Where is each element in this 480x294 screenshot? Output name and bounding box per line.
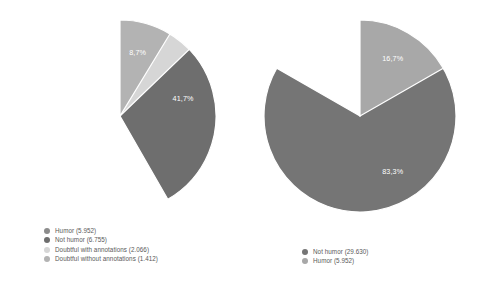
legend-swatch-icon — [302, 249, 308, 255]
legend-item[interactable]: Not humor (6.755) — [44, 237, 107, 243]
pie-chart-figure: 36,8%41,7%12,8%8,7% Humor (5.952) Not hu… — [0, 0, 480, 294]
legend-swatch-icon — [44, 247, 50, 253]
right-pie-svg: 83,3%16,7% — [262, 18, 458, 214]
legend-swatch-icon — [44, 228, 50, 234]
legend-item-label: Not humor (29.630) — [313, 249, 369, 255]
legend-swatch-icon — [302, 258, 308, 264]
legend-item-label: Humor (5.952) — [55, 228, 96, 234]
pie-slice-label: 8,7% — [129, 48, 146, 57]
right-chart-panel: 83,3%16,7% Not humor (29.630) Humor (5.9… — [240, 0, 480, 294]
left-pie-svg: 36,8%41,7%12,8%8,7% — [22, 18, 218, 214]
pie-slice-label: 16,7% — [382, 54, 403, 63]
legend-item[interactable]: Humor (5.952) — [44, 228, 96, 234]
legend-swatch-icon — [44, 256, 50, 262]
right-chart-legend: Not humor (29.630) Humor (5.952) — [240, 249, 480, 265]
left-chart-panel: 36,8%41,7%12,8%8,7% Humor (5.952) Not hu… — [0, 0, 240, 294]
legend-item[interactable]: Not humor (29.630) — [302, 249, 369, 255]
legend-item[interactable]: Doubtful without annotations (1.412) — [44, 256, 158, 262]
right-pie-chart: 83,3%16,7% — [262, 18, 458, 214]
legend-item-label: Doubtful with annotations (2.066) — [55, 247, 149, 253]
pie-slice-label: 83,3% — [382, 167, 403, 176]
left-pie-chart: 36,8%41,7%12,8%8,7% — [22, 18, 218, 214]
legend-item-label: Not humor (6.755) — [55, 237, 107, 243]
pie-slice-label: 41,7% — [173, 94, 194, 103]
legend-item-label: Humor (5.952) — [313, 258, 354, 264]
legend-swatch-icon — [44, 237, 50, 243]
legend-item[interactable]: Doubtful with annotations (2.066) — [44, 247, 149, 253]
legend-item[interactable]: Humor (5.952) — [302, 258, 354, 264]
legend-item-label: Doubtful without annotations (1.412) — [55, 256, 158, 262]
